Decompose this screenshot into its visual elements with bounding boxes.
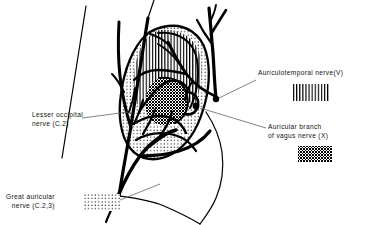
great-auricular-nerve-label-line1: Great auricular — [6, 192, 55, 201]
auriculotemporal-nerve-label: Auriculotemporal nerve(V) — [258, 68, 343, 77]
great-auricular-nerve-label-line2: nerve (C.2,3) — [6, 201, 55, 210]
lesser-occipital-nerve-label-line2: nerve (C.2) — [32, 119, 83, 128]
auricular-branch-vagus-label-line1: Auricular branch — [268, 122, 328, 131]
lesser-occipital-nerve-label-line1: Lesser occipital — [32, 110, 83, 119]
great-auricular-nerve-label: Great auricular nerve (C.2,3) — [6, 192, 55, 210]
auricular-branch-vagus-label: Auricular branch of vagus nerve (X) — [268, 122, 328, 140]
anatomy-figure: Auriculotemporal nerve(V) Auricular bran… — [0, 0, 371, 225]
lesser-occipital-nerve-label: Lesser occipital nerve (C.2) — [32, 110, 83, 128]
auriculotemporal-nerve-label-line1: Auriculotemporal nerve(V) — [258, 68, 343, 77]
legend-swatch-cross-hatch — [298, 146, 332, 162]
legend-swatch-vertical-lines — [293, 84, 329, 101]
auricular-branch-vagus-label-line2: of vagus nerve (X) — [268, 131, 328, 140]
legend-swatch-dots — [84, 194, 120, 211]
